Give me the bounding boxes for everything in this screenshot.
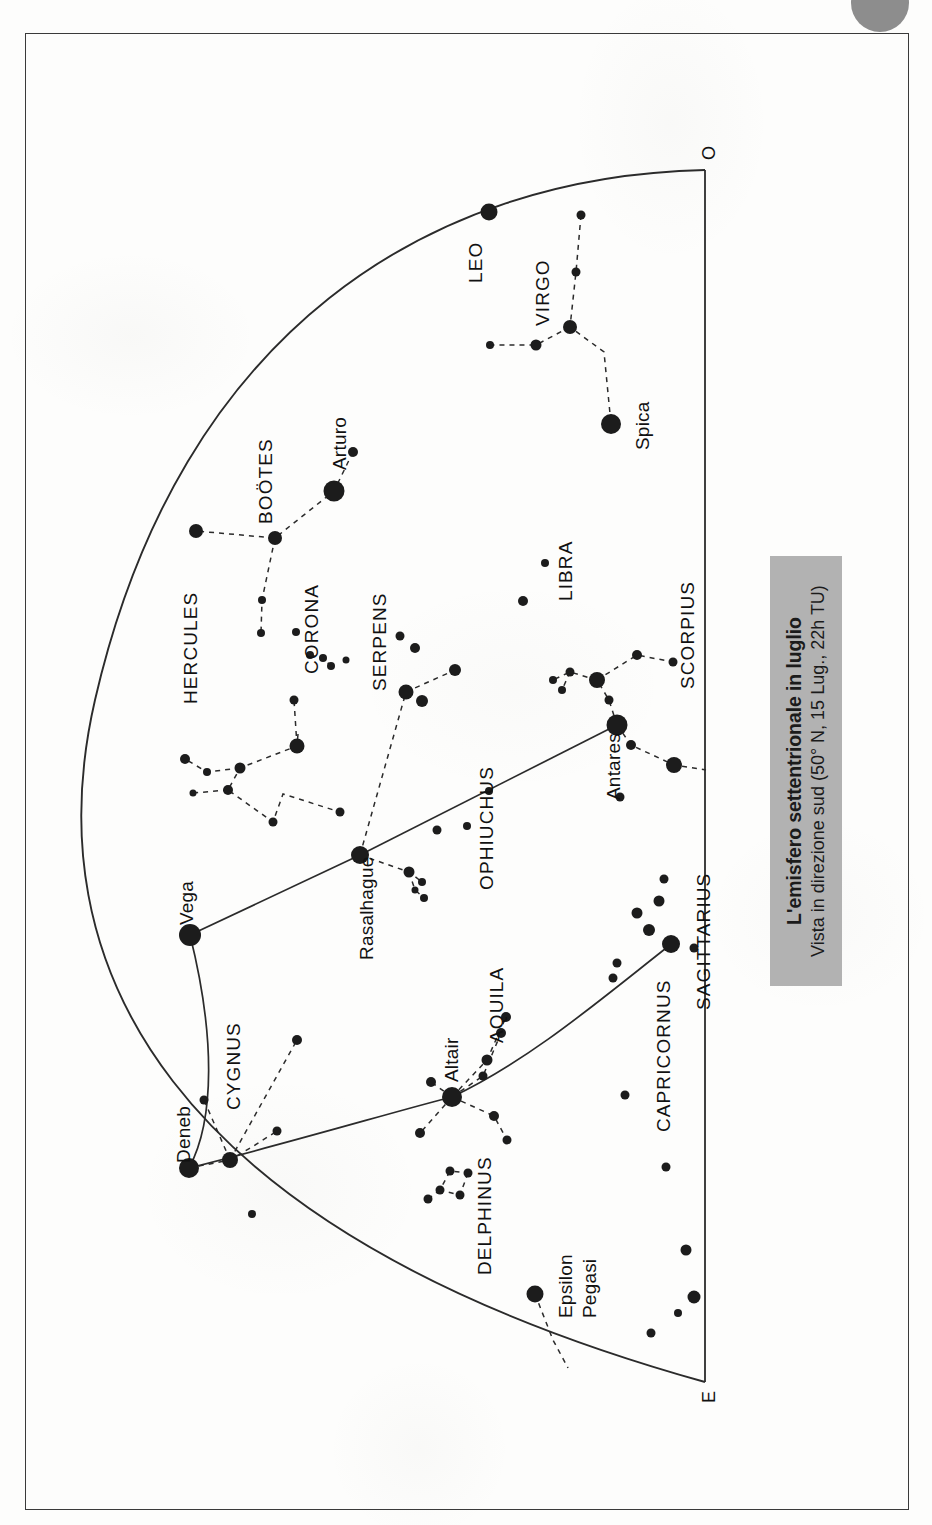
- constellation-label-leo: LEO: [466, 242, 485, 283]
- guide-lines: [189, 725, 670, 1168]
- star-label-pegasi: Pegasi: [580, 1259, 599, 1318]
- constellation-label-bootes: BOÖTES: [256, 438, 275, 524]
- star-label-antares: Antares: [604, 733, 623, 800]
- direction-west-label: O: [700, 146, 718, 160]
- star-label-rasalhague: Rasalhague: [357, 857, 376, 960]
- figure-caption-panel: L'emisfero settentrionale in luglio Vist…: [770, 556, 842, 986]
- star-label-epsilon: Epsilon: [556, 1254, 575, 1318]
- constellation-label-ophiuchus: OPHIUCHUS: [477, 766, 496, 890]
- direction-east-label: E: [700, 1391, 718, 1403]
- constellation-label-cygnus: CYGNUS: [224, 1022, 243, 1110]
- star-label-spica: Spica: [633, 401, 652, 450]
- star-vega: [179, 924, 201, 946]
- figure-caption-title: L'emisfero settentrionale in luglio: [784, 617, 806, 925]
- star-label-altair: Altair: [442, 1038, 461, 1083]
- constellation-label-capricornus: CAPRICORNUS: [654, 979, 673, 1132]
- figure-caption-rotated: L'emisfero settentrionale in luglio Vist…: [770, 556, 842, 986]
- star-arturo: [324, 481, 345, 502]
- star-leo-bright: [481, 204, 498, 221]
- constellation-label-hercules: HERCULES: [181, 592, 200, 704]
- figure-page: O E LEO VIRGO LIBRA SCORPIUS BOÖTES CORO…: [0, 0, 932, 1525]
- constellation-label-aquila: AQUILA: [487, 967, 506, 1043]
- constellation-lines: [185, 215, 706, 1368]
- constellation-label-corona: CORONA: [302, 584, 321, 674]
- star-label-arturo: Arturo: [330, 417, 349, 470]
- constellation-label-sagittarius: SAGITTARIUS: [694, 873, 713, 1010]
- constellation-label-virgo: VIRGO: [533, 259, 552, 326]
- constellation-label-serpens: SERPENS: [370, 592, 389, 691]
- constellation-label-libra: LIBRA: [556, 541, 575, 601]
- star-label-deneb: Deneb: [174, 1106, 193, 1163]
- star-label-vega: Vega: [177, 881, 196, 925]
- constellation-label-delphinus: DELPHINUS: [475, 1156, 494, 1275]
- star-epsilon-pegasi: [527, 1286, 544, 1303]
- figure-caption-subtitle: Vista in direzione sud (50° N, 15 Lug., …: [808, 585, 829, 957]
- star-spica: [601, 414, 621, 434]
- constellation-label-scorpius: SCORPIUS: [678, 581, 697, 689]
- star-altair: [442, 1087, 462, 1107]
